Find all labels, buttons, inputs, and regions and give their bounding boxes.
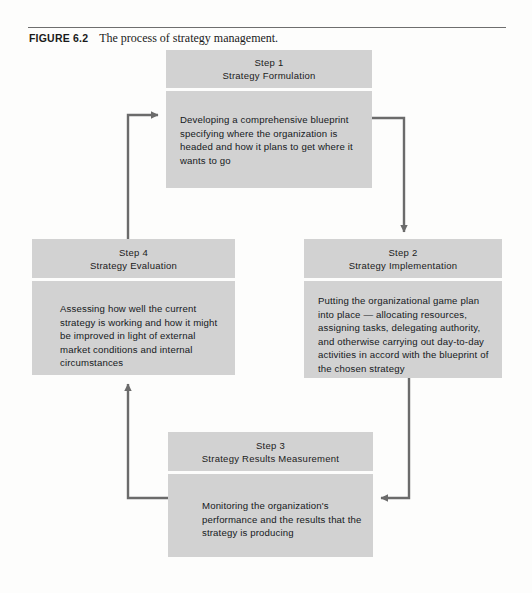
step2-body-text: Putting the organizational game plan int… xyxy=(304,281,490,376)
step3-title: Strategy Results Measurement xyxy=(202,452,339,465)
step2-title: Strategy Implementation xyxy=(349,259,458,272)
arrow-step3-to-step4 xyxy=(128,384,168,498)
step1-title: Strategy Formulation xyxy=(222,69,315,82)
step4-body-text: Assessing how well the current strategy … xyxy=(32,281,220,370)
figure-page: FIGURE 6.2The process of strategy manage… xyxy=(0,0,532,593)
step-box-step3[interactable]: Step 3 Strategy Results Measurement Moni… xyxy=(168,432,373,557)
step3-step-label: Step 3 xyxy=(256,439,285,452)
arrow-step1-to-step2 xyxy=(372,118,404,232)
step1-step-label: Step 1 xyxy=(255,56,284,69)
step1-body-text: Developing a comprehensive blueprint spe… xyxy=(166,91,356,167)
step3-body-text: Monitoring the organization's performanc… xyxy=(168,474,362,540)
step3-body: Monitoring the organization's performanc… xyxy=(168,474,373,557)
step2-step-label: Step 2 xyxy=(389,246,418,259)
step3-header: Step 3 Strategy Results Measurement xyxy=(168,432,373,471)
step1-body: Developing a comprehensive blueprint spe… xyxy=(166,91,372,188)
step-box-step4[interactable]: Step 4 Strategy Evaluation Assessing how… xyxy=(32,239,235,375)
step1-header: Step 1 Strategy Formulation xyxy=(166,50,372,88)
step-box-step1[interactable]: Step 1 Strategy Formulation Developing a… xyxy=(166,50,372,188)
step2-body: Putting the organizational game plan int… xyxy=(304,281,502,378)
step4-header: Step 4 Strategy Evaluation xyxy=(32,239,235,278)
arrow-step4-to-step1 xyxy=(128,115,158,239)
step4-title: Strategy Evaluation xyxy=(90,259,177,272)
step4-body: Assessing how well the current strategy … xyxy=(32,281,235,375)
arrow-step2-to-step3 xyxy=(381,378,409,498)
step4-step-label: Step 4 xyxy=(119,246,148,259)
step2-header: Step 2 Strategy Implementation xyxy=(304,239,502,278)
step-box-step2[interactable]: Step 2 Strategy Implementation Putting t… xyxy=(304,239,502,378)
